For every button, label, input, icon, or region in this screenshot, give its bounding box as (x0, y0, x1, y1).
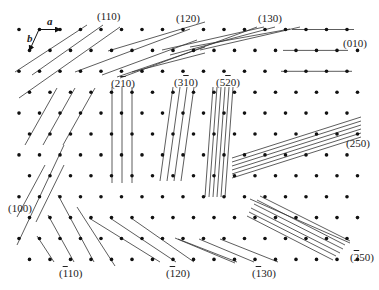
lattice-point (99, 195, 103, 199)
label-bar250: (250) (350, 252, 374, 263)
lattice-point (202, 111, 206, 115)
label-250: (250) (346, 138, 370, 149)
lattice-point (192, 216, 196, 220)
lattice-point (294, 174, 298, 178)
plane-line (25, 88, 57, 145)
lattice-point (69, 90, 73, 94)
lattice-point (48, 90, 52, 94)
lattice-point (243, 28, 247, 32)
lattice-point (263, 237, 267, 241)
lattice-point (233, 174, 237, 178)
lattice-point (89, 49, 93, 53)
lattice-point (345, 237, 349, 241)
lattice-point (222, 28, 226, 32)
lattice-point (345, 111, 349, 115)
lattice-point (110, 49, 114, 53)
lattice-point (110, 132, 114, 136)
lattice-point (99, 28, 103, 32)
plane-line (43, 88, 75, 145)
lattice-point (222, 195, 226, 199)
lattice-point (192, 90, 196, 94)
lattice-point (171, 90, 175, 94)
lattice-point (79, 70, 83, 74)
lattice-point (304, 28, 308, 32)
lattice-point (192, 49, 196, 53)
lattice-point (304, 70, 308, 74)
lattice-point (130, 216, 134, 220)
lattice-point (151, 174, 155, 178)
lattice-point (294, 258, 298, 262)
vector-a-label: a (47, 16, 53, 27)
label-part: (5 (216, 76, 225, 88)
lattice-point (110, 216, 114, 220)
lattice-point (253, 216, 257, 220)
lattice-point (17, 153, 21, 157)
lattice-point (79, 153, 83, 157)
lattice-point (335, 258, 339, 262)
plane-line (250, 199, 350, 243)
lattice-point (130, 258, 134, 262)
lattice-point (130, 132, 134, 136)
lattice-point (222, 153, 226, 157)
lattice-point (151, 216, 155, 220)
lattice-point (79, 111, 83, 115)
plane-line (209, 87, 217, 197)
lattice-point (315, 216, 319, 220)
lattice-point (325, 195, 329, 199)
lattice-point (120, 153, 124, 157)
lattice-point (202, 153, 206, 157)
lattice-point (79, 195, 83, 199)
plane-line (17, 145, 64, 245)
lattice-point (140, 153, 144, 157)
lattice-point (325, 237, 329, 241)
lattice-point (356, 174, 360, 178)
lattice-point (89, 132, 93, 136)
lattice-point (304, 153, 308, 157)
plane-line (217, 87, 225, 197)
lattice-point (325, 111, 329, 115)
lattice-point (263, 195, 267, 199)
lattice-point (335, 49, 339, 53)
lattice-point (345, 70, 349, 74)
lattice-point (315, 174, 319, 178)
lattice-point (192, 132, 196, 136)
plane-line (174, 87, 187, 181)
lattice-point (120, 111, 124, 115)
lattice-point (263, 70, 267, 74)
lattice-point (69, 216, 73, 220)
lattice-point (315, 258, 319, 262)
plane-line (205, 87, 213, 197)
lattice-point (233, 49, 237, 53)
lattice-point (294, 90, 298, 94)
plane-line (232, 133, 361, 174)
lattice-point (99, 70, 103, 74)
lattice-point (48, 174, 52, 178)
label-bar130: (130) (252, 268, 276, 279)
lattice-point (294, 49, 298, 53)
plane-lines (15, 22, 361, 266)
lattice-point (263, 28, 267, 32)
lattice-point (294, 132, 298, 136)
lattice-point (345, 195, 349, 199)
lattice-point (274, 174, 278, 178)
lattice-point (222, 237, 226, 241)
lattice-point (181, 28, 185, 32)
label-5bar20: (520) (216, 77, 240, 88)
lattice-point (89, 258, 93, 262)
lattice-point (161, 70, 165, 74)
lattice-point (151, 90, 155, 94)
lattice-point (69, 258, 73, 262)
lattice-point (222, 70, 226, 74)
plane-line (89, 218, 160, 262)
plane-line (213, 87, 221, 197)
lattice-point (284, 237, 288, 241)
lattice-point (253, 132, 257, 136)
lattice-point (79, 28, 83, 32)
lattice-point (161, 111, 165, 115)
label-2bar10: (210) (111, 78, 135, 89)
lattice-point (304, 111, 308, 115)
lattice-point (345, 28, 349, 32)
lattice-point (89, 90, 93, 94)
lattice-point (243, 111, 247, 115)
lattice-canvas (0, 0, 379, 290)
